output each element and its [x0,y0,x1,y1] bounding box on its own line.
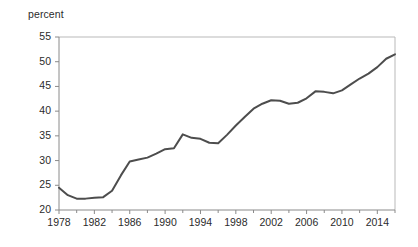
y-tick-label: 50 [25,56,51,67]
y-tick-label: 20 [25,204,51,215]
y-tick-label: 30 [25,155,51,166]
y-tick-label: 35 [25,130,51,141]
plot-area [0,0,418,247]
y-tick-label: 40 [25,105,51,116]
x-tick-label: 2014 [355,217,399,228]
y-axis-ticks [55,37,59,210]
y-tick-label: 45 [25,80,51,91]
y-tick-label: 55 [25,31,51,42]
chart-figure: percent 2025303540455055 197819821986199… [0,0,418,247]
x-axis-ticks [59,210,395,214]
plot-frame [59,37,395,210]
y-tick-label: 25 [25,179,51,190]
data-series-line [59,54,395,198]
